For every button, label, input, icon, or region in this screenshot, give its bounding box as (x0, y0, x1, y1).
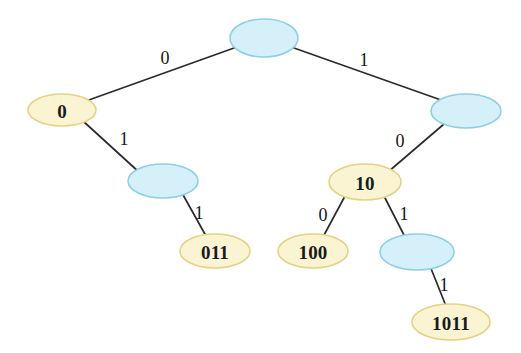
tree-node-codeword: 011 (180, 234, 250, 268)
edge-label: 1 (440, 275, 449, 295)
tree-node-codeword: 0 (28, 94, 96, 126)
tree-node-codeword: 10 (329, 164, 401, 200)
edge-label: 1 (400, 204, 409, 224)
node-label: 10 (355, 173, 374, 194)
tree-node-codeword: 1011 (412, 304, 490, 340)
tree-node-internal (380, 234, 454, 270)
binary-tree-diagram: 0100111001011 01101011 (0, 0, 521, 353)
tree-node-internal (230, 19, 298, 57)
node-ellipse (380, 234, 454, 270)
edge-label: 0 (319, 205, 328, 225)
tree-node-internal (431, 94, 501, 128)
node-label: 1011 (432, 313, 470, 334)
edge-label: 1 (195, 203, 204, 223)
node-ellipse (230, 19, 298, 57)
node-ellipse (128, 164, 198, 198)
edge-label: 1 (120, 129, 129, 149)
tree-edge (83, 121, 140, 173)
edge-label: 0 (161, 48, 170, 68)
node-label: 011 (201, 242, 229, 263)
node-label: 0 (57, 101, 67, 122)
tree-node-codeword: 100 (278, 234, 348, 268)
tree-node-internal (128, 164, 198, 198)
node-label: 100 (298, 242, 327, 263)
edge-label: 1 (360, 50, 369, 70)
tree-canvas: 0100111001011 01101011 (0, 0, 521, 353)
nodes-layer: 0100111001011 (28, 19, 501, 340)
node-ellipse (431, 94, 501, 128)
edge-label: 0 (396, 131, 405, 151)
